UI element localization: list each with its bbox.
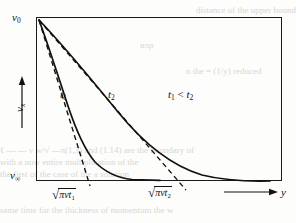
- x-axis-arrow: [224, 189, 278, 195]
- curve-label-t2: t2: [108, 88, 115, 102]
- tangent-t1-dashed: [39, 20, 90, 186]
- inequality-right-subscript: 2: [190, 93, 194, 102]
- x-tick-2-radicand: πνt: [155, 187, 167, 198]
- curve-t2: [39, 20, 270, 181]
- curve-label-t2-subscript: 2: [111, 93, 115, 102]
- y-axis-label-subscript: x: [18, 104, 27, 107]
- curve-label-t1: t1: [60, 88, 67, 102]
- figure-page: distance of the upper boundary uπρ n the…: [0, 0, 296, 223]
- vinf-subscript: ∞: [15, 174, 20, 183]
- curve-t1: [39, 20, 160, 180]
- x-tick-1-subscript: 1: [71, 194, 74, 201]
- y-axis-label-base: v: [13, 107, 25, 112]
- y-axis-arrow: [19, 76, 25, 128]
- v0-subscript: 0: [17, 16, 21, 25]
- y-axis-bottom-value-label: v∞: [10, 169, 20, 183]
- curve-label-t1-subscript: 1: [63, 93, 67, 102]
- x-axis-label: y: [281, 186, 286, 198]
- tangent-t2-dashed: [39, 20, 186, 190]
- x-tick-label-2: √πνt2: [148, 186, 172, 200]
- y-axis-top-value-label: v0: [12, 11, 21, 25]
- inequality-annotation: t1 < t2: [168, 88, 193, 102]
- x-tick-1-radicand: πνt: [59, 189, 71, 200]
- x-tick-label-1: √πνt1: [52, 188, 76, 202]
- y-axis-label: vx: [13, 104, 27, 112]
- x-tick-2-subscript: 2: [167, 192, 170, 199]
